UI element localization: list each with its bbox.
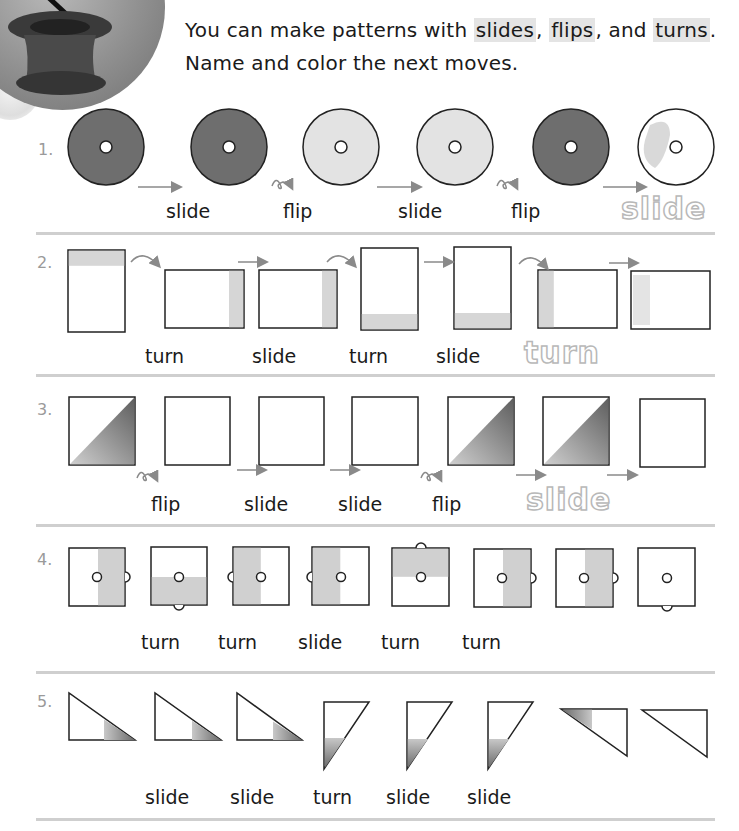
problem-2-figures bbox=[68, 247, 710, 332]
turn-arrow-icon bbox=[327, 256, 355, 266]
flip-arrow-icon bbox=[421, 472, 441, 480]
problem-3-figures bbox=[69, 397, 705, 481]
ring-dark bbox=[68, 109, 144, 185]
flip-arrow-icon bbox=[497, 180, 517, 188]
move-label: flip bbox=[511, 200, 540, 222]
problem-4-figures bbox=[69, 543, 695, 611]
problem-number-4: 4. bbox=[37, 550, 52, 569]
square-answer bbox=[640, 399, 705, 467]
divider bbox=[36, 232, 715, 235]
move-label: slide bbox=[252, 345, 296, 367]
move-label: turn bbox=[381, 631, 420, 653]
move-label: slide bbox=[467, 786, 511, 808]
move-label: slide bbox=[298, 631, 342, 653]
move-label: flip bbox=[432, 493, 461, 515]
divider bbox=[36, 671, 715, 674]
ring-light bbox=[303, 109, 379, 185]
move-label: slide bbox=[166, 200, 210, 222]
ring-dark bbox=[533, 109, 609, 185]
traced-answer[interactable]: turn bbox=[524, 335, 600, 370]
problem-5-figures bbox=[69, 693, 707, 769]
turn-arrow-icon bbox=[131, 256, 159, 266]
move-label: turn bbox=[313, 786, 352, 808]
flip-arrow-icon bbox=[137, 472, 157, 480]
move-label: flip bbox=[151, 493, 180, 515]
divider bbox=[36, 524, 715, 527]
move-label: slide bbox=[386, 786, 430, 808]
divider bbox=[36, 374, 715, 377]
problem-number-3: 3. bbox=[37, 400, 52, 419]
traced-answer[interactable]: slide bbox=[621, 191, 706, 226]
move-label: slide bbox=[436, 345, 480, 367]
move-label: turn bbox=[349, 345, 388, 367]
move-label: flip bbox=[283, 200, 312, 222]
ring-dark bbox=[191, 109, 267, 185]
move-label: turn bbox=[145, 345, 184, 367]
divider bbox=[36, 818, 715, 821]
move-label: slide bbox=[230, 786, 274, 808]
move-label: slide bbox=[398, 200, 442, 222]
move-label: slide bbox=[338, 493, 382, 515]
problem-1-figures bbox=[68, 109, 714, 189]
flip-arrow-icon bbox=[272, 180, 292, 188]
turn-arrow-icon bbox=[519, 258, 547, 268]
traced-answer[interactable]: slide bbox=[526, 482, 611, 517]
problem-number-1: 1. bbox=[38, 140, 53, 159]
triangle-answer bbox=[642, 710, 707, 757]
move-label: slide bbox=[244, 493, 288, 515]
worksheet-figures bbox=[0, 0, 739, 831]
move-label: turn bbox=[141, 631, 180, 653]
ring-answer[interactable] bbox=[638, 109, 714, 185]
ring-light bbox=[417, 109, 493, 185]
problem-number-5: 5. bbox=[37, 692, 52, 711]
move-label: slide bbox=[145, 786, 189, 808]
move-label: turn bbox=[218, 631, 257, 653]
problem-number-2: 2. bbox=[37, 253, 52, 272]
move-label: turn bbox=[462, 631, 501, 653]
